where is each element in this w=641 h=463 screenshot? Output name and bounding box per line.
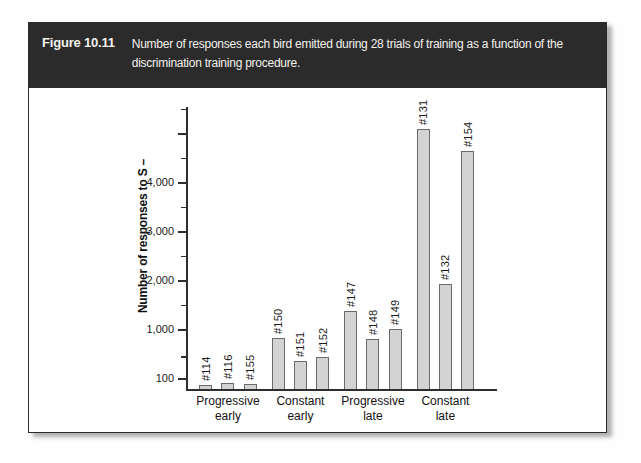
x-axis-line (186, 389, 497, 391)
figure-caption: Number of responses each bird emitted du… (132, 35, 595, 72)
bar-label: #148 (365, 293, 381, 335)
bar-label: #154 (460, 105, 476, 147)
y-tick-mark (181, 207, 186, 209)
y-tick-label: 4,000 (114, 176, 174, 188)
group-label-line2: late (400, 409, 490, 424)
figure-label: Figure 10.11 (42, 35, 115, 50)
y-tick-mark (178, 280, 186, 282)
figure-header: Figure 10.11 Number of responses each bi… (28, 22, 607, 87)
bar-label: #147 (343, 265, 359, 307)
y-tick-mark (181, 256, 186, 258)
y-tick-mark (181, 158, 186, 160)
bar-label: #149 (387, 283, 403, 325)
bar (221, 383, 234, 389)
bar (316, 357, 329, 389)
bar (461, 151, 474, 389)
bar (244, 384, 257, 389)
y-tick-mark (181, 109, 186, 111)
y-tick-mark (181, 356, 186, 358)
y-tick-label: 3,000 (114, 225, 174, 237)
bar-label: #155 (242, 338, 258, 380)
bar (199, 385, 212, 389)
bar (417, 129, 430, 389)
bar-label: #150 (270, 292, 286, 334)
y-tick-mark (178, 182, 186, 184)
y-tick-mark (178, 231, 186, 233)
group-label-line1: Constant (400, 394, 490, 409)
bar-label: #132 (437, 238, 453, 280)
bar (366, 339, 379, 389)
y-tick-label: 2,000 (114, 274, 174, 286)
y-tick-label: 100 (114, 372, 174, 384)
bar-label: #152 (315, 311, 331, 353)
figure-panel: Figure 10.11 Number of responses each bi… (28, 22, 607, 433)
chart-panel: Number of responses to S – 1001,0002,000… (28, 87, 607, 433)
bar (294, 361, 307, 389)
bar (389, 329, 402, 389)
y-axis-line (186, 107, 188, 391)
bar (344, 311, 357, 389)
bar-label: #151 (292, 315, 308, 357)
bar (439, 284, 452, 389)
y-tick-mark (181, 305, 186, 307)
y-tick-mark (178, 329, 186, 331)
bar-label: #114 (198, 339, 214, 381)
bar-label: #116 (220, 337, 236, 379)
y-tick-label: 1,000 (114, 323, 174, 335)
bar-label: #131 (415, 83, 431, 125)
bar-chart: Number of responses to S – 1001,0002,000… (29, 88, 606, 432)
bar (272, 338, 285, 389)
y-tick-mark (178, 133, 186, 135)
group-label: Constantlate (400, 394, 490, 424)
y-tick-mark (178, 378, 186, 380)
